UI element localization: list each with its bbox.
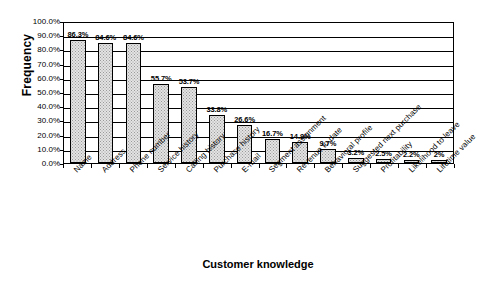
x-axis-category-labels: NameAddressPhone numberService historyCa… (63, 168, 463, 258)
bar-series: 86.3%84.6%84.6%55.7%53.7%33.8%26.6%16.7%… (64, 23, 453, 163)
bar-value-label: 84.6% (95, 33, 116, 42)
bar-value-label: 55.7% (151, 74, 172, 83)
y-axis-tick-label: 70.0% (16, 61, 60, 69)
y-axis-tick-label: 20.0% (16, 132, 60, 140)
bar-slot: 84.6% (120, 23, 148, 163)
y-axis-tick-label: 0.0% (16, 160, 60, 168)
y-axis-tick-label: 30.0% (16, 117, 60, 125)
bar-value-label: 53.7% (179, 77, 200, 86)
bar-value-label: 33.8% (206, 105, 227, 114)
bar-value-label: 26.6% (234, 115, 255, 124)
bar-slot: 2.2% (397, 23, 425, 163)
bar-slot: 16.7% (259, 23, 287, 163)
bar[interactable] (70, 40, 86, 163)
y-axis-tick-label: 100.0% (16, 18, 60, 26)
bar-value-label: 16.7% (262, 129, 283, 138)
y-axis-tick-label: 10.0% (16, 146, 60, 154)
bar-value-label: 84.6% (123, 33, 144, 42)
x-axis-title: Customer knowledge (60, 258, 456, 270)
bar-slot: 86.3% (64, 23, 92, 163)
y-axis-tick-label: 40.0% (16, 103, 60, 111)
plot-area: 86.3%84.6%84.6%55.7%53.7%33.8%26.6%16.7%… (63, 22, 454, 164)
y-axis-tick-label: 60.0% (16, 75, 60, 83)
bar-slot: 84.6% (92, 23, 120, 163)
y-axis-tick-labels: 100.0%90.0%80.0%70.0%60.0%50.0%40.0%30.0… (14, 0, 60, 292)
y-axis-tick-label: 50.0% (16, 89, 60, 97)
y-axis-tick-label: 80.0% (16, 46, 60, 54)
bar[interactable] (98, 43, 114, 163)
bar-value-label: 86.3% (68, 30, 89, 39)
bar[interactable] (126, 43, 142, 163)
y-axis-tick-label: 90.0% (16, 32, 60, 40)
